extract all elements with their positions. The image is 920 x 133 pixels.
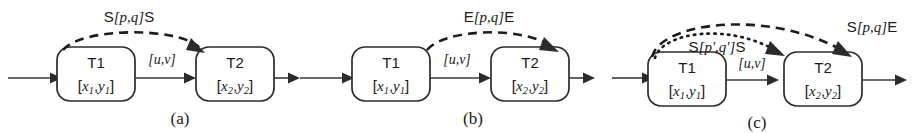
panel-b-output-arrow <box>569 73 595 84</box>
panel-c-t2-title: T2 <box>814 59 832 76</box>
panel-b-arc-arrowhead <box>539 37 559 52</box>
panel-a-input-arrow <box>8 73 62 84</box>
panel-c-box-t2: T2 [x2,y2] <box>784 52 862 106</box>
panel-b-caption: (b) <box>463 109 483 128</box>
panel-c-edge-t1-t2: [u,v] <box>726 56 779 86</box>
panel-c-output-arrow <box>862 75 907 86</box>
panel-b-input-arrow <box>300 73 354 84</box>
panel-c-t1-title: T1 <box>678 59 696 76</box>
panel-c-arc-dotted-label: S[p',q']S <box>689 38 746 55</box>
panel-a-edge-t1-t2: [u,v] <box>135 52 196 84</box>
panel-b-edge-label: [u,v] <box>443 52 471 67</box>
panel-c-caption: (c) <box>748 113 767 132</box>
panel-b-t2-title: T2 <box>521 54 539 71</box>
panel-a-caption: (a) <box>171 109 190 128</box>
panel-a-t2-title: T2 <box>226 54 244 71</box>
panel-b-t1-title: T1 <box>382 54 400 71</box>
panel-b-box-t2: T2 [x2,y2] <box>491 47 569 101</box>
panel-a-t1-title: T1 <box>87 54 105 71</box>
figure-canvas: T1 [x1,y1] [u,v] T2 [x2,y2] <box>0 0 920 133</box>
panel-b-arc-dashed: E[p,q]E <box>427 8 559 52</box>
panel-a: T1 [x1,y1] [u,v] T2 [x2,y2] <box>8 8 300 128</box>
panel-b-box-t1: T1 [x1,y1] <box>352 47 430 101</box>
panel-a-edge-label: [u,v] <box>148 52 176 67</box>
panel-c-edge-label: [u,v] <box>738 56 766 71</box>
panel-a-box-t2: T2 [x2,y2] <box>196 47 274 101</box>
panel-a-box-t1: T1 [x1,y1] <box>57 47 135 101</box>
panel-a-arc-arrowhead <box>186 38 205 53</box>
panel-b-edge-t1-t2: [u,v] <box>430 52 491 84</box>
panel-c-arc-dashed-label: S[p,q]E <box>847 18 897 35</box>
panel-a-arc-label: S[p,q]S <box>104 8 154 25</box>
panel-b: T1 [x1,y1] [u,v] T2 [x2,y2] E[ <box>300 8 595 128</box>
panel-c: T1 [x1,y1] [u,v] T2 [x2,y2] S[ <box>612 18 907 132</box>
panel-c-arc-dotted-arrowhead <box>765 41 785 56</box>
panel-c-box-t1: T1 [x1,y1] <box>648 52 726 106</box>
panel-a-output-arrow <box>274 73 300 84</box>
panel-b-arc-label: E[p,q]E <box>464 8 514 25</box>
